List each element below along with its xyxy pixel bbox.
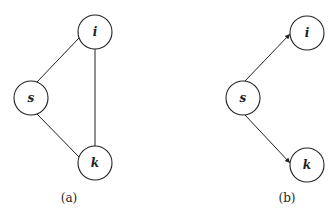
node-label: s [28, 91, 35, 105]
node-s: s [14, 81, 48, 115]
node-label: s [240, 91, 247, 105]
node-i: i [78, 15, 112, 49]
node-i: i [290, 16, 324, 50]
node-k: k [290, 148, 324, 182]
node-label: k [91, 156, 99, 170]
caption-b: (b) [278, 191, 295, 205]
node-k: k [78, 146, 112, 180]
node-label: i [93, 25, 98, 39]
diagram-b: i s k (b) [226, 16, 324, 205]
graph-figure: i s k (a) i s k (b) [0, 0, 336, 212]
edge-s-i-arrow [245, 34, 290, 81]
node-label: i [305, 26, 310, 40]
edge-s-k-arrow [245, 115, 290, 163]
node-s: s [226, 81, 260, 115]
node-label: k [303, 158, 311, 172]
edge-s-k [37, 114, 79, 157]
edge-s-i [37, 38, 79, 82]
caption-a: (a) [61, 191, 78, 205]
diagram-a: i s k (a) [14, 15, 112, 205]
